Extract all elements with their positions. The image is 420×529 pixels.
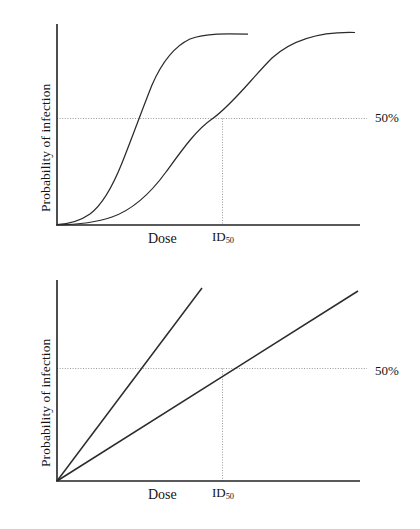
id50-subscript: 50 [226, 235, 234, 245]
x-axis-label: Dose [148, 487, 177, 503]
id50-subscript: 50 [226, 491, 234, 501]
shallow-sigmoid-curve [57, 32, 355, 224]
threshold-value-label: 50% [375, 110, 399, 126]
shallow-linear-line [57, 291, 358, 481]
sigmoid-chart-panel: Probability of infection Dose ID50 50% [0, 0, 420, 265]
id50-prefix: ID [212, 485, 226, 500]
threshold-value-label: 50% [375, 363, 399, 379]
linear-plot-svg [0, 265, 420, 529]
steep-sigmoid-curve [57, 34, 248, 225]
y-axis-label: Probability of infection [38, 84, 54, 212]
id50-tick-label: ID50 [212, 485, 234, 501]
sigmoid-plot-svg [0, 0, 420, 265]
id50-prefix: ID [212, 229, 226, 244]
steep-linear-line [57, 288, 202, 481]
id50-tick-label: ID50 [212, 229, 234, 245]
linear-chart-panel: Probability of infection Dose ID50 50% [0, 265, 420, 529]
y-axis-label: Probability of infection [38, 339, 54, 467]
x-axis-label: Dose [148, 231, 177, 247]
